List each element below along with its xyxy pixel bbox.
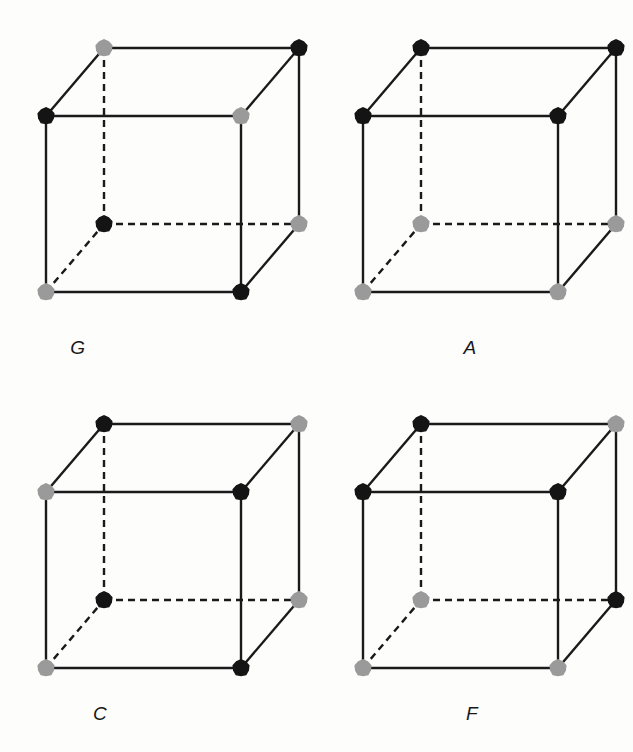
cube-edge-front-bottom-right-to-back-bottom-right (558, 600, 616, 668)
atom-black-back-top-left (95, 415, 112, 432)
atom-gray-back-top-left (95, 39, 112, 56)
atom-black-back-bottom-left (95, 591, 112, 608)
cube-edge-front-bottom-left-to-back-bottom-left (363, 600, 421, 668)
cube-svg-c (0, 376, 316, 706)
atom-black-back-top-left (412, 415, 429, 432)
atom-gray-back-top-right (290, 415, 307, 432)
cube-edge-front-bottom-left-to-back-bottom-left (46, 224, 104, 292)
cube-edge-front-top-left-to-back-top-left (46, 424, 104, 492)
atom-gray-back-bottom-right (290, 215, 307, 232)
cube-panel-g: G (0, 0, 316, 376)
cube-panel-c: C (0, 376, 316, 752)
cube-edge-front-top-left-to-back-top-left (46, 48, 104, 116)
cube-edge-front-top-right-to-back-top-right (558, 424, 616, 492)
cube-edge-front-top-right-to-back-top-right (241, 424, 299, 492)
atom-black-back-top-left (412, 39, 429, 56)
cube-label-a: A (312, 337, 628, 359)
atom-gray-front-bottom-left (37, 659, 54, 676)
atom-black-back-top-right (607, 39, 624, 56)
atom-black-back-bottom-left (95, 215, 112, 232)
cube-diagram-c (0, 376, 316, 710)
cube-panel-f: F (317, 376, 633, 752)
cube-panel-a: A (317, 0, 633, 376)
atom-gray-back-top-right (607, 415, 624, 432)
cube-edge-front-bottom-right-to-back-bottom-right (558, 224, 616, 292)
cube-edge-front-top-left-to-back-top-left (363, 424, 421, 492)
cube-svg-f (317, 376, 633, 706)
atom-black-back-bottom-right (607, 591, 624, 608)
atom-gray-back-bottom-left (412, 591, 429, 608)
cube-edge-front-top-right-to-back-top-right (558, 48, 616, 116)
atom-gray-back-bottom-right (290, 591, 307, 608)
cube-edge-front-top-left-to-back-top-left (363, 48, 421, 116)
cube-svg-a (317, 0, 633, 330)
cube-edge-front-bottom-right-to-back-bottom-right (241, 224, 299, 292)
cube-label-g: G (0, 337, 236, 359)
cube-edge-front-bottom-right-to-back-bottom-right (241, 600, 299, 668)
cube-edge-front-top-right-to-back-top-right (241, 48, 299, 116)
cube-edge-front-bottom-left-to-back-bottom-left (46, 600, 104, 668)
atom-gray-back-bottom-left (412, 215, 429, 232)
atom-gray-front-bottom-left (354, 659, 371, 676)
cube-diagram-f (317, 376, 633, 710)
cube-edge-front-bottom-left-to-back-bottom-left (363, 224, 421, 292)
cube-label-c: C (0, 703, 258, 725)
atom-gray-front-bottom-left (354, 283, 371, 300)
atom-gray-back-bottom-right (607, 215, 624, 232)
cube-diagram-g (0, 0, 316, 334)
atom-gray-front-bottom-left (37, 283, 54, 300)
cube-label-f: F (314, 703, 630, 725)
cube-svg-g (0, 0, 316, 330)
figure-sheet: G A C F (0, 0, 633, 752)
atom-black-back-top-right (290, 39, 307, 56)
cube-diagram-a (317, 0, 633, 334)
